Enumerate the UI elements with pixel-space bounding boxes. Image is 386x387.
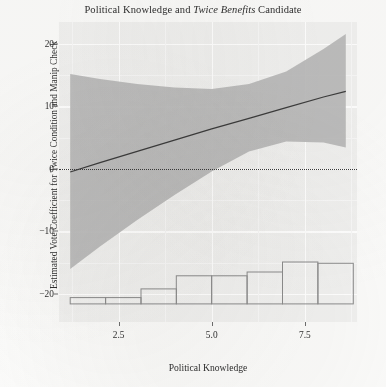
x-axis-title: Political Knowledge [58,362,358,373]
y-axis-tick-group: 20100−10−20 [10,0,54,387]
y-axis-tick-label: −20 [14,289,54,299]
x-axis-tick-label: 2.5 [99,330,139,340]
fit-line [59,22,357,322]
y-axis-tick-mark [54,43,58,44]
y-axis-tick-mark [54,231,58,232]
x-axis-tick-label: 7.5 [285,330,325,340]
chart-title-lead: Political Knowledge and [84,4,193,15]
figure-container: Political Knowledge and Twice Benefits C… [0,0,386,387]
y-axis-tick-mark [54,106,58,107]
x-axis-tick-mark [119,322,120,326]
x-axis-tick-label: 5.0 [192,330,232,340]
y-axis-tick-label: 0 [14,164,54,174]
x-axis-tick-mark [305,322,306,326]
y-axis-tick-mark [54,293,58,294]
x-axis-tick-mark [212,322,213,326]
plot-panel [59,22,357,322]
y-axis-tick-label: 20 [14,39,54,49]
chart-title-italic: Twice Benefits [193,4,255,15]
y-axis-tick-mark [54,168,58,169]
y-axis-tick-label: −10 [14,226,54,236]
chart-title-tail: Candidate [255,4,301,15]
chart-title: Political Knowledge and Twice Benefits C… [0,4,386,15]
y-axis-tick-label: 10 [14,101,54,111]
fit-line-path [70,91,346,172]
